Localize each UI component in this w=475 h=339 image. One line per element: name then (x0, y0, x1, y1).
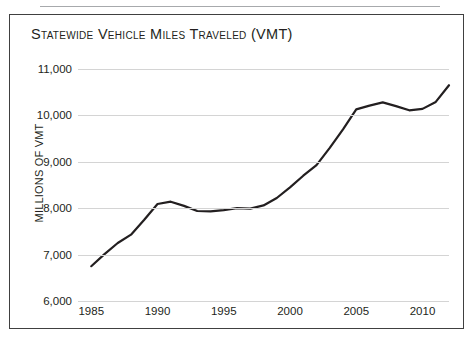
y-axis-tick-label: 10,000 (37, 109, 72, 121)
gridline (78, 208, 449, 209)
gridline (78, 115, 449, 116)
gridline (78, 69, 449, 70)
gridline (78, 301, 449, 302)
x-axis-tick-label: 2010 (410, 305, 436, 317)
gridline (78, 255, 449, 256)
x-axis-tick-label: 1985 (78, 305, 104, 317)
y-axis-tick-label: 8,000 (43, 202, 72, 214)
top-divider-rule (40, 6, 440, 7)
line-series (78, 69, 449, 301)
y-axis-tick-label: 9,000 (43, 156, 72, 168)
y-axis-tick-label: 11,000 (38, 63, 72, 75)
y-axis-tick-label: 6,000 (43, 295, 72, 307)
y-axis-tick-label: 7,000 (43, 249, 72, 261)
x-axis-tick-labels: 198519901995200020052010 (78, 305, 449, 325)
plot-area (78, 69, 449, 301)
plot-wrapper: MILLIONS OF VMT 11,00010,0009,0008,0007,… (10, 15, 463, 328)
x-axis-tick-label: 1990 (145, 305, 171, 317)
gridline (78, 162, 449, 163)
x-axis-tick-label: 2000 (277, 305, 303, 317)
y-axis-tick-labels: 11,00010,0009,0008,0007,0006,000 (16, 69, 72, 301)
x-axis-tick-label: 2005 (343, 305, 369, 317)
vmt-line-path (91, 85, 449, 266)
chart-figure: Statewide Vehicle Miles Traveled (VMT) M… (0, 0, 475, 339)
x-axis-tick-label: 1995 (211, 305, 237, 317)
chart-frame: Statewide Vehicle Miles Traveled (VMT) M… (9, 14, 464, 329)
